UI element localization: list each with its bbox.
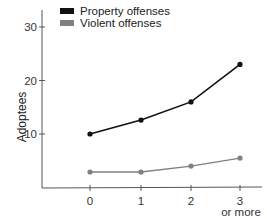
y-tick-label: 30 bbox=[24, 21, 37, 33]
x-tick-label: or more bbox=[221, 206, 261, 218]
data-point bbox=[87, 169, 92, 174]
data-point bbox=[237, 155, 242, 160]
legend-label-violent: Violent offenses bbox=[80, 17, 161, 29]
data-point bbox=[237, 62, 242, 67]
y-axis-label: Adoptees bbox=[15, 87, 29, 147]
series-line-property bbox=[90, 64, 240, 134]
x-tick-label: 2 bbox=[188, 195, 194, 207]
x-axis bbox=[42, 187, 262, 188]
legend: Property offenses Violent offenses bbox=[60, 5, 170, 29]
data-point bbox=[138, 169, 143, 174]
legend-item-property: Property offenses bbox=[60, 5, 170, 17]
x-tick-label: 0 bbox=[87, 195, 93, 207]
legend-swatch-violent bbox=[60, 20, 74, 26]
data-point bbox=[87, 131, 92, 136]
legend-item-violent: Violent offenses bbox=[60, 17, 170, 29]
legend-swatch-property bbox=[60, 8, 74, 14]
series-line-violent bbox=[90, 158, 240, 172]
data-point bbox=[188, 164, 193, 169]
x-tick-label: 1 bbox=[138, 195, 144, 207]
data-point bbox=[138, 117, 143, 122]
legend-label-property: Property offenses bbox=[80, 5, 170, 17]
y-tick-label: 20 bbox=[24, 75, 37, 87]
line-chart: 1020300123or more bbox=[0, 0, 267, 219]
data-point bbox=[188, 99, 193, 104]
